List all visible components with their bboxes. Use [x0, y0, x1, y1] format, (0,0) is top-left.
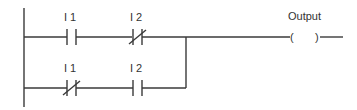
contact-no-i2 — [133, 80, 142, 96]
output-coil: ( ) Output — [288, 10, 343, 43]
contact-no-i1 — [67, 29, 76, 45]
contact-label: I 2 — [130, 11, 142, 23]
output-label: Output — [288, 10, 321, 22]
coil-close-paren: ) — [315, 31, 319, 43]
ladder-diagram: I 1 I 2 I 1 I 2 ( ) Output — [0, 0, 357, 110]
coil-open-paren: ( — [290, 31, 294, 43]
rung-2: I 1 I 2 — [24, 37, 186, 96]
contact-label: I 2 — [130, 62, 142, 74]
contact-label: I 1 — [64, 62, 76, 74]
contact-label: I 1 — [64, 11, 76, 23]
rung-1: I 1 I 2 — [24, 11, 290, 45]
